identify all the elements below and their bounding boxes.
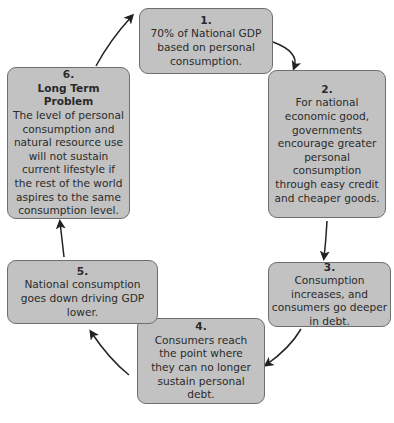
- arrow-4-to-5: [91, 332, 129, 375]
- arrow-1-to-2: [273, 42, 295, 68]
- step-4-box: 4. Consumers reach the point where they …: [137, 318, 265, 404]
- step-6-title: Long Term Problem: [11, 82, 126, 109]
- step-2-number: 2.: [321, 83, 332, 97]
- arrow-5-to-6: [60, 222, 64, 257]
- step-1-number: 1.: [200, 14, 211, 28]
- arrow-3-to-4: [266, 329, 301, 365]
- step-1-text: 70% of National GDP based on personal co…: [147, 27, 265, 68]
- arrow-6-to-1: [96, 16, 132, 66]
- step-3-number: 3.: [324, 261, 335, 275]
- step-4-text: Consumers reach the point where they can…: [151, 334, 251, 402]
- step-6-text: The level of personal consumption and na…: [13, 109, 125, 218]
- step-5-text: National consumption goes down driving G…: [18, 278, 148, 319]
- step-3-box: 3. Consumption increases, and consumers …: [268, 262, 391, 327]
- step-2-text: For national economic good, governments …: [271, 96, 383, 205]
- arrow-2-to-3: [324, 221, 327, 258]
- step-3-text: Consumption increases, and consumers go …: [271, 274, 389, 328]
- step-6-number: 6.: [63, 68, 74, 82]
- step-4-number: 4.: [195, 320, 206, 334]
- step-5-box: 5. National consumption goes down drivin…: [7, 260, 158, 324]
- step-1-box: 1. 70% of National GDP based on personal…: [139, 8, 273, 74]
- step-6-box: 6. Long Term Problem The level of person…: [7, 67, 130, 219]
- step-5-number: 5.: [77, 265, 88, 279]
- step-2-box: 2. For national economic good, governmen…: [268, 70, 386, 218]
